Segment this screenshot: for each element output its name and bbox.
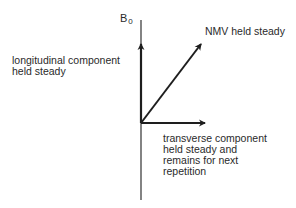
longitudinal-label: longitudinal component held steady bbox=[12, 55, 120, 77]
nmv-arrow bbox=[141, 44, 201, 123]
transverse-label: transverse component held steady and rem… bbox=[163, 133, 267, 177]
b0-axis-label: B0 bbox=[120, 12, 133, 26]
b0-main: B bbox=[120, 12, 127, 24]
vector-diagram: B0 longitudinal component held steady NM… bbox=[0, 0, 296, 208]
b0-subscript: 0 bbox=[128, 17, 132, 26]
longitudinal-label-line: held steady bbox=[12, 66, 120, 77]
nmv-label: NMV held steady bbox=[205, 26, 285, 37]
transverse-label-line: repetition bbox=[163, 166, 267, 177]
